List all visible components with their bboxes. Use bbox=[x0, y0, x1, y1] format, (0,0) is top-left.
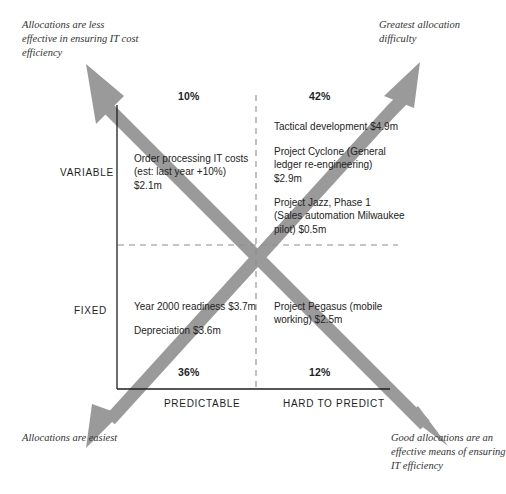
percent-top-left: 10% bbox=[178, 90, 200, 102]
diagram-graphics bbox=[0, 0, 506, 494]
axis-label-variable: VARIABLE bbox=[60, 167, 114, 178]
axis-label-fixed: FIXED bbox=[74, 305, 107, 316]
item-tactical-development: Tactical development $4.9m bbox=[274, 120, 434, 133]
caption-top-left: Allocations are less effective in ensuri… bbox=[22, 18, 142, 60]
caption-top-right: Greatest allocation difficulty bbox=[379, 18, 499, 46]
caption-bottom-left: Allocations are easiest bbox=[22, 431, 172, 445]
item-project-pegasus: Project Pegasus (mobile working) $2.5m bbox=[274, 300, 404, 327]
matrix-diagram: Allocations are less effective in ensuri… bbox=[0, 0, 506, 494]
percent-top-right: 42% bbox=[309, 90, 331, 102]
item-order-processing: Order processing IT costs (est: last yea… bbox=[134, 152, 264, 192]
item-project-cyclone: Project Cyclone (General ledger re-engin… bbox=[274, 145, 414, 185]
percent-bottom-left: 36% bbox=[178, 366, 200, 378]
axis-label-hard-to-predict: HARD TO PREDICT bbox=[283, 398, 385, 409]
item-project-jazz: Project Jazz, Phase 1 (Sales automation … bbox=[274, 196, 429, 236]
percent-bottom-right: 12% bbox=[309, 366, 331, 378]
item-depreciation: Depreciation $3.6m bbox=[134, 324, 294, 337]
axis-label-predictable: PREDICTABLE bbox=[164, 398, 240, 409]
caption-bottom-right: Good allocations are an effective means … bbox=[391, 431, 506, 473]
item-year-2000-readiness: Year 2000 readiness $3.7m bbox=[134, 300, 294, 313]
